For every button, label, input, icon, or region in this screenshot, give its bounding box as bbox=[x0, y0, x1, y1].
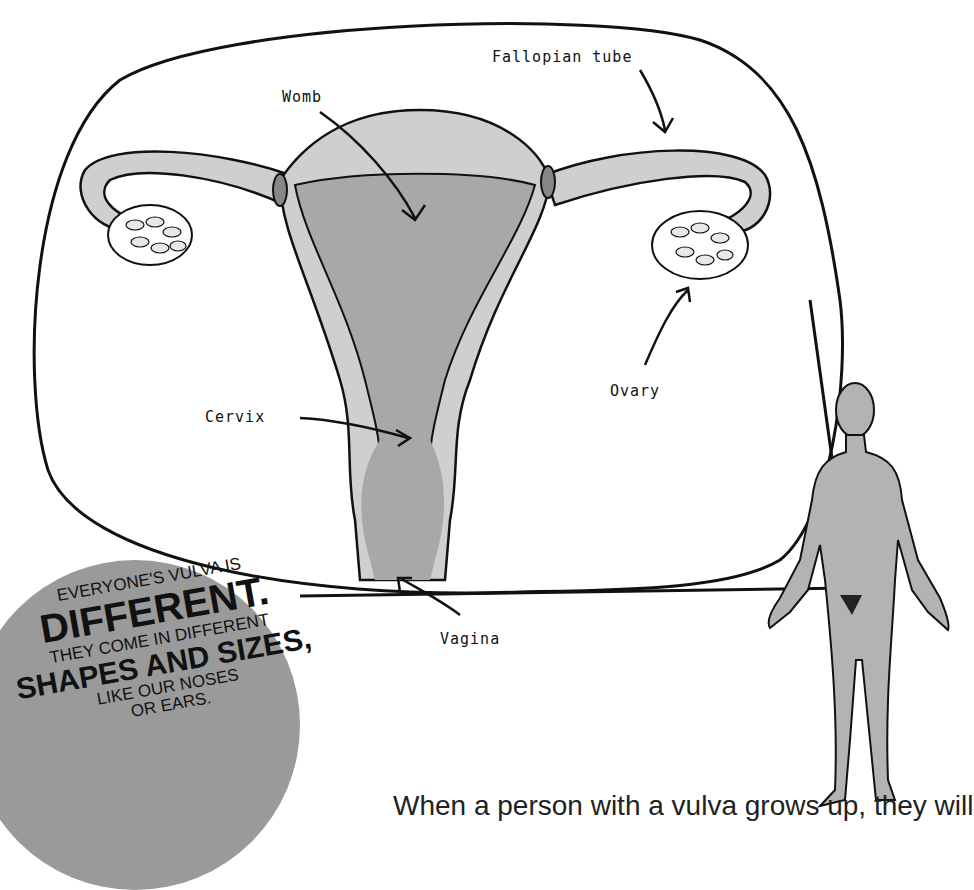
label-womb: Womb bbox=[282, 88, 322, 106]
right-tube-opening bbox=[541, 166, 555, 198]
ovary-arrow bbox=[645, 288, 690, 365]
body-text: When a person with a vulva grows up, the… bbox=[393, 790, 974, 822]
cervix-vagina bbox=[361, 440, 444, 580]
label-ovary: Ovary bbox=[610, 382, 660, 400]
fallopian-arrow bbox=[640, 70, 673, 132]
right-fallopian-tube bbox=[545, 151, 770, 233]
right-ovary bbox=[652, 211, 748, 279]
left-tube-opening bbox=[273, 174, 287, 206]
label-fallopian-tube: Fallopian tube bbox=[492, 48, 632, 66]
vagina-arrow bbox=[398, 578, 460, 615]
human-figure bbox=[769, 383, 949, 806]
label-cervix: Cervix bbox=[205, 408, 265, 426]
label-vagina: Vagina bbox=[440, 630, 500, 648]
